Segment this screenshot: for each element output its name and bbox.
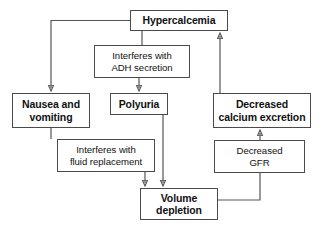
node-nausea-line-1: Nausea and — [20, 98, 82, 110]
flowchart-diagram: Hypercalcemia Interferes with ADH secret… — [0, 0, 323, 232]
node-decreased-calcium-excretion: Decreased calcium excretion — [213, 93, 311, 128]
node-volume-line-2: depletion — [154, 204, 204, 216]
node-adh-line-1: Interferes with — [110, 50, 174, 61]
node-calcium-line-1: Decreased — [234, 98, 290, 110]
node-hypercalcemia: Hypercalcemia — [130, 10, 228, 31]
node-decreased-gfr: Decreased GFR — [214, 140, 305, 173]
node-polyuria: Polyuria — [110, 93, 168, 115]
node-gfr-line-2: GFR — [247, 157, 271, 168]
node-volume-depletion: Volume depletion — [140, 188, 218, 220]
node-nausea-and-vomiting: Nausea and vomiting — [12, 93, 90, 128]
node-volume-line-1: Volume — [159, 192, 200, 204]
node-calcium-line-2: calcium excretion — [216, 111, 307, 123]
edge-volume-to-gfr — [218, 173, 260, 200]
node-polyuria-line-1: Polyuria — [117, 98, 162, 110]
node-nausea-line-2: vomiting — [28, 111, 75, 123]
node-fluid-line-1: Interferes with — [74, 144, 138, 155]
node-gfr-line-1: Decreased — [235, 145, 285, 156]
node-hypercalcemia-line-1: Hypercalcemia — [141, 14, 218, 26]
node-fluid-line-2: fluid replacement — [68, 156, 144, 167]
node-interferes-with-adh-secretion: Interferes with ADH secretion — [94, 45, 190, 78]
node-interferes-with-fluid-replacement: Interferes with fluid replacement — [57, 139, 155, 172]
node-adh-line-2: ADH secretion — [109, 62, 174, 73]
